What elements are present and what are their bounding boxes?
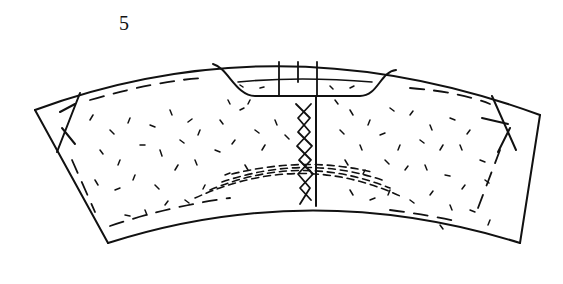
zigzag-reinforcement <box>296 104 313 204</box>
inner-dashed-contour <box>72 78 500 226</box>
notch <box>213 64 396 96</box>
outline <box>35 66 540 243</box>
stipple-texture <box>90 85 490 229</box>
arched-block-diagram <box>0 0 563 284</box>
bottom-dashed-arcs <box>195 164 400 198</box>
